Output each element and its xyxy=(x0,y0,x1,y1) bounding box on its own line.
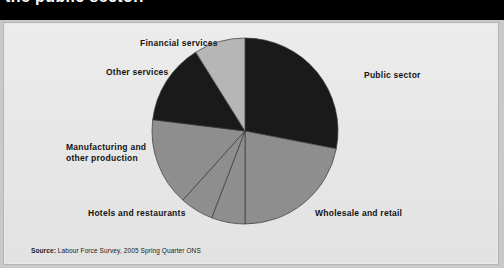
pie-label-other-services: Other services xyxy=(106,67,169,78)
source-prefix: Source: xyxy=(31,247,56,254)
pie-label-wholesale-and-retail: Wholesale and retail xyxy=(315,208,402,219)
pie-chart-svg xyxy=(0,0,504,268)
source-text: Labour Force Survey, 2005 Spring Quarter… xyxy=(56,247,201,254)
pie-label-public-sector: Public sector xyxy=(364,70,421,81)
pie-chart xyxy=(0,0,504,268)
screenshot-root: the public sector. Financial services Ot… xyxy=(0,0,504,268)
pie-label-manufacturing-line1: Manufacturing and xyxy=(66,142,146,152)
source-note: Source: Labour Force Survey, 2005 Spring… xyxy=(31,247,201,254)
pie-slice-group xyxy=(152,38,338,224)
pie-label-manufacturing: Manufacturing and other production xyxy=(66,142,166,164)
pie-label-hotels-and-restaurants: Hotels and restaurants xyxy=(88,208,186,219)
pie-label-financial-services: Financial services xyxy=(140,38,218,49)
pie-slice xyxy=(245,38,338,149)
pie-label-manufacturing-line2: other production xyxy=(66,153,138,163)
